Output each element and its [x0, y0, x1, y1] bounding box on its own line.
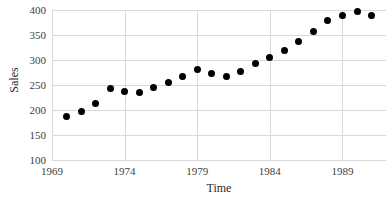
x-tick-label: 1984 — [240, 166, 300, 177]
scatter-chart: 100150200250300350400 196919741979198419… — [0, 0, 392, 201]
data-point — [223, 73, 230, 80]
x-tick-label: 1974 — [95, 166, 155, 177]
gridline-horizontal — [52, 135, 386, 136]
data-point — [150, 84, 157, 91]
data-point — [107, 85, 114, 92]
data-point — [339, 12, 346, 19]
data-point — [78, 108, 85, 115]
data-point — [121, 88, 128, 95]
y-tick-label: 400 — [8, 5, 46, 16]
data-point — [368, 12, 375, 19]
gridline-vertical — [270, 10, 271, 160]
x-tick-label: 1969 — [22, 166, 82, 177]
gridline-vertical — [52, 10, 53, 160]
data-point — [136, 89, 143, 96]
data-point — [63, 113, 70, 120]
data-point — [179, 73, 186, 80]
gridline-horizontal — [52, 60, 386, 61]
data-point — [252, 60, 259, 67]
gridline-vertical — [125, 10, 126, 160]
data-point — [208, 70, 215, 77]
x-axis-title: Time — [52, 182, 386, 194]
data-point — [295, 38, 302, 45]
gridline-horizontal — [52, 85, 386, 86]
y-axis-title: Sales — [8, 50, 20, 110]
data-point — [92, 100, 99, 107]
gridline-vertical — [342, 10, 343, 160]
data-point — [324, 17, 331, 24]
data-point — [165, 79, 172, 86]
y-tick-label: 150 — [8, 130, 46, 141]
gridline-vertical — [197, 10, 198, 160]
data-point — [310, 28, 317, 35]
plot-area — [52, 10, 386, 160]
gridline-horizontal — [52, 110, 386, 111]
data-point — [237, 68, 244, 75]
gridline-horizontal — [52, 35, 386, 36]
gridline-horizontal — [52, 10, 386, 11]
data-point — [354, 8, 361, 15]
x-tick-label: 1989 — [312, 166, 372, 177]
x-tick-label: 1979 — [167, 166, 227, 177]
data-point — [194, 66, 201, 73]
data-point — [281, 47, 288, 54]
y-tick-label: 350 — [8, 30, 46, 41]
gridline-horizontal — [52, 160, 386, 161]
